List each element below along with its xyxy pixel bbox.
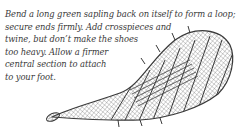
caption-line-4: too heavy. Allow a firmer — [5, 46, 236, 59]
caption-line-5: central section to attach — [5, 58, 236, 71]
caption-line-1: Bend a long green sapling back on itself… — [5, 8, 236, 21]
caption-line-3: twine, but don’t make the shoes — [5, 33, 236, 46]
caption-line-2: secure ends firmly. Add crosspieces and — [5, 21, 236, 34]
tail-binding — [45, 111, 61, 123]
caption-line-6: to your foot. — [5, 71, 236, 84]
instruction-caption: Bend a long green sapling back on itself… — [5, 8, 236, 84]
